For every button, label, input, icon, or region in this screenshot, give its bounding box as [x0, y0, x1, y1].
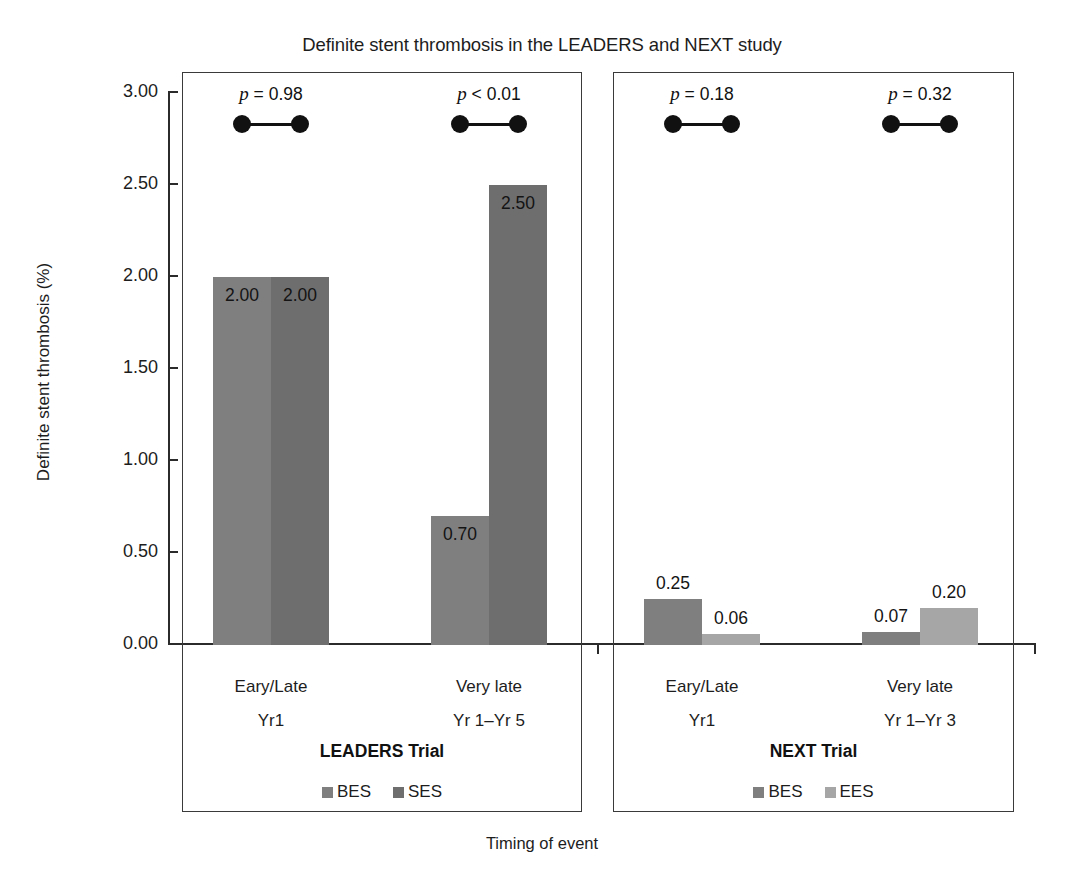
bar-value-label: 2.00	[271, 285, 329, 306]
significance-dot-left	[233, 115, 251, 133]
legend-label: SES	[408, 782, 442, 802]
chart-title: Definite stent thrombosis in the LEADERS…	[0, 34, 1084, 56]
y-axis-tick-label: 3.00	[40, 81, 158, 102]
category-label: Eary/LateYr1	[612, 677, 792, 731]
y-axis-tick	[168, 459, 178, 461]
y-axis-tick-label: 1.50	[40, 357, 158, 378]
bar-next-bes-1	[862, 632, 920, 645]
significance-dot-right	[722, 115, 740, 133]
legend-label: BES	[768, 782, 802, 802]
legend: BESEES	[614, 782, 1013, 802]
bar-leaders-bes-0	[213, 277, 271, 645]
cat-label-line1: Very late	[887, 677, 953, 696]
bar-leaders-ses-0	[271, 277, 329, 645]
bar-value-label: 0.70	[431, 524, 489, 545]
plot-area-leaders: 2.002.000.702.50	[183, 73, 581, 645]
y-axis-tick	[168, 367, 178, 369]
x-axis-title: Timing of event	[0, 834, 1084, 853]
category-label: Eary/LateYr1	[181, 677, 361, 731]
bar-value-label: 2.00	[213, 285, 271, 306]
legend-item-bes[interactable]: BES	[322, 782, 371, 802]
bar-value-label: 0.06	[702, 608, 760, 629]
significance-dot-right	[291, 115, 309, 133]
significance-dot-left	[664, 115, 682, 133]
y-axis-tick-label: 0.00	[40, 633, 158, 654]
bar-value-label: 0.20	[920, 582, 978, 603]
legend-swatch-icon	[393, 787, 404, 798]
panel-leaders: 2.002.000.702.50 Eary/LateYr1Very lateYr…	[182, 72, 582, 812]
bar-value-label: 0.07	[862, 606, 920, 627]
legend-swatch-icon	[753, 787, 764, 798]
legend-label: EES	[840, 782, 874, 802]
significance-dot-left	[451, 115, 469, 133]
significance-dot-right	[940, 115, 958, 133]
bar-value-label: 2.50	[489, 193, 547, 214]
y-axis-tick	[168, 91, 178, 93]
y-axis-tick-label: 1.00	[40, 449, 158, 470]
cat-label-line1: Eary/Late	[666, 677, 739, 696]
plot-area-next: 0.250.060.070.20	[614, 73, 1013, 645]
panel-next: 0.250.060.070.20 Eary/LateYr1Very lateYr…	[613, 72, 1014, 812]
x-axis-tick-mid	[597, 643, 599, 654]
p-value-label: p = 0.18	[614, 83, 790, 105]
cat-label-line2: Yr1	[181, 711, 361, 731]
bar-next-ees-0	[702, 634, 760, 645]
legend-swatch-icon	[825, 787, 836, 798]
y-axis-tick	[168, 275, 178, 277]
bar-next-bes-0	[644, 599, 702, 645]
legend-item-ses[interactable]: SES	[393, 782, 442, 802]
legend: BESSES	[183, 782, 581, 802]
cat-label-line2: Yr1	[612, 711, 792, 731]
significance-dot-right	[509, 115, 527, 133]
y-axis-tick-label: 2.00	[40, 265, 158, 286]
legend-item-bes[interactable]: BES	[753, 782, 802, 802]
trial-name: NEXT Trial	[614, 741, 1013, 762]
y-axis-tick	[168, 183, 178, 185]
cat-label-line1: Very late	[456, 677, 522, 696]
x-axis-tick-end	[1034, 643, 1036, 654]
y-axis-tick	[168, 551, 178, 553]
y-axis-tick-label: 2.50	[40, 173, 158, 194]
legend-swatch-icon	[322, 787, 333, 798]
bar-next-ees-1	[920, 608, 978, 645]
cat-label-line1: Eary/Late	[235, 677, 308, 696]
bar-leaders-ses-1	[489, 185, 547, 645]
cat-label-line2: Yr 1–Yr 5	[399, 711, 579, 731]
legend-item-ees[interactable]: EES	[825, 782, 874, 802]
category-label: Very lateYr 1–Yr 3	[830, 677, 1010, 731]
significance-dot-left	[882, 115, 900, 133]
bar-value-label: 0.25	[644, 573, 702, 594]
category-label: Very lateYr 1–Yr 5	[399, 677, 579, 731]
p-value-label: p = 0.98	[183, 83, 359, 105]
p-value-label: p = 0.32	[832, 83, 1008, 105]
trial-name: LEADERS Trial	[183, 741, 581, 762]
y-axis-tick-label: 0.50	[40, 541, 158, 562]
cat-label-line2: Yr 1–Yr 3	[830, 711, 1010, 731]
p-value-label: p < 0.01	[401, 83, 577, 105]
legend-label: BES	[337, 782, 371, 802]
chart-figure: Definite stent thrombosis in the LEADERS…	[0, 0, 1084, 877]
